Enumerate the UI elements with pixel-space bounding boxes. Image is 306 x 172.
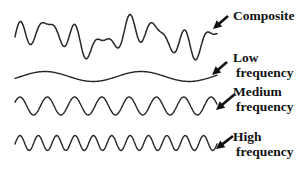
label-high-frequency: High frequency [233,129,294,159]
label-high-line2: frequency [236,144,294,159]
label-low-line1: Low [233,50,294,65]
label-medium-line2: frequency [236,99,294,114]
composite-waveform [15,15,217,60]
label-medium-frequency: Medium frequency [233,84,294,114]
high-frequency-arrow-icon [216,136,233,149]
label-composite: Composite [233,8,295,23]
frequency-decomposition-figure: Composite Low frequency Medium frequency… [0,0,306,172]
composite-arrow-icon [213,16,228,29]
label-low-frequency: Low frequency [233,50,294,80]
low-frequency-arrow-icon [212,62,227,75]
low-frequency-waveform [15,72,217,82]
high-frequency-waveform [15,136,217,151]
label-composite-line1: Composite [233,8,295,23]
label-medium-line1: Medium [233,84,294,99]
label-low-line2: frequency [236,65,294,80]
label-high-line1: High [233,129,294,144]
medium-frequency-waveform [15,97,217,115]
